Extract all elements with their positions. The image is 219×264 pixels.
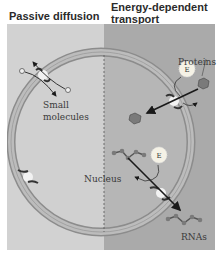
label-nucleus: Nucleus — [84, 174, 122, 184]
svg-text:E: E — [156, 152, 161, 160]
label-proteins: Proteins — [178, 57, 216, 67]
nuclear-transport-diagram: E E Small molecules Proteins Nucleus RNA… — [0, 0, 219, 264]
label-rnas: RNAs — [181, 232, 207, 242]
label-small: Small — [43, 100, 69, 110]
energy-burst-icon: E — [151, 147, 167, 163]
svg-text:E: E — [184, 66, 189, 74]
label-molecules: molecules — [43, 112, 89, 122]
